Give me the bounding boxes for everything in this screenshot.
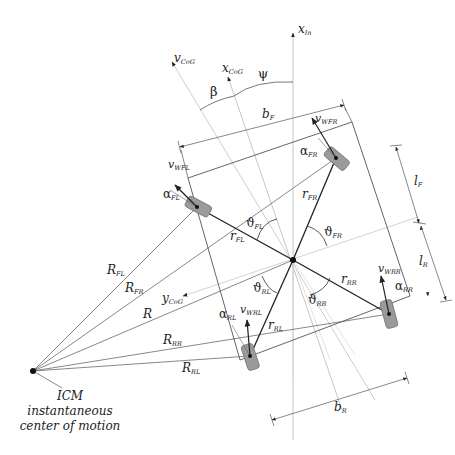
alpha-fr-label: αFR xyxy=(300,144,318,159)
b-f-label: bF xyxy=(262,107,275,122)
r-fr-label: rFR xyxy=(302,187,317,202)
r-fl-label: rFL xyxy=(230,229,245,244)
R-fr-label: RFR xyxy=(124,281,144,296)
svg-text:instantaneous: instantaneous xyxy=(27,404,112,418)
theta-rl-label: ϑRL xyxy=(253,281,271,296)
v-wrr-label: vWRR xyxy=(378,262,401,276)
y-cog-label: yCoG xyxy=(161,291,183,306)
theta-rr-label: ϑRR xyxy=(308,293,326,308)
l-r-label: lR xyxy=(419,254,428,269)
psi-label: ψ xyxy=(258,66,268,81)
v-cog-axis xyxy=(172,62,375,400)
r-rl-label: rRL xyxy=(268,318,283,333)
icm-point xyxy=(30,368,36,374)
vehicle-body xyxy=(188,122,410,360)
v-wfl-label: vWFL xyxy=(168,158,190,172)
theta-arcs xyxy=(257,219,330,295)
x-in-label: xIn xyxy=(298,22,312,37)
icm-radii xyxy=(33,158,389,388)
icm-caption: ICM instantaneous center of motion xyxy=(20,389,121,433)
vehicle-kinematics-diagram: xIn xCoG vCoG yCoG ψ β bF bR lF lR vWFL … xyxy=(0,0,455,455)
alpha-rr-label: αRR xyxy=(395,279,413,294)
R-fl-label: RFL xyxy=(106,263,125,278)
alpha-rl-label: αRL xyxy=(219,307,236,322)
R-rr-label: RRR xyxy=(162,333,182,348)
wheel-front-right xyxy=(312,118,351,172)
R-rl-label: RRL xyxy=(181,361,200,376)
svg-text:center of motion: center of motion xyxy=(20,419,121,433)
b-r-label: bR xyxy=(334,400,347,415)
l-f-label: lF xyxy=(414,174,423,189)
v-wfr-label: vWFR xyxy=(315,112,337,126)
alpha-fl-label: αFL xyxy=(163,187,180,202)
svg-text:ICM: ICM xyxy=(56,389,84,403)
v-cog-label: vCoG xyxy=(174,51,195,66)
cog-point xyxy=(290,257,296,263)
theta-fr-label: ϑFR xyxy=(324,225,342,240)
v-wrl-label: vWRL xyxy=(240,303,262,317)
beta-label: β xyxy=(210,84,218,99)
R-label: R xyxy=(142,307,152,321)
r-rr-label: rRR xyxy=(341,272,357,287)
theta-fl-label: ϑFL xyxy=(246,216,263,231)
rear-track-dimension xyxy=(270,372,409,426)
x-cog-label: xCoG xyxy=(222,61,243,76)
